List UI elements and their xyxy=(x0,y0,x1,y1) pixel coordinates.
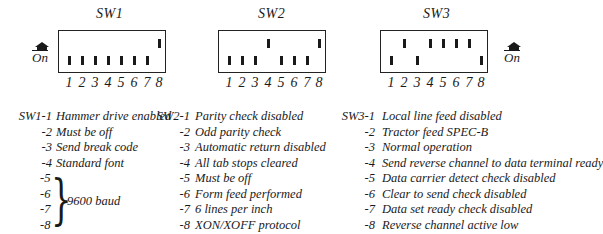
switch-sw1-1[interactable] xyxy=(68,56,71,65)
switch-sw3-3[interactable] xyxy=(416,56,419,65)
legend-row: SW2-1 Parity check disabled xyxy=(140,109,300,125)
switch-number: 1 xyxy=(386,75,396,91)
legend-sw2: SW2-1 Parity check disabled -2 Odd parit… xyxy=(140,109,300,233)
legend-key: -2 xyxy=(365,125,375,141)
sw1-title: SW1 xyxy=(96,6,123,22)
legend-key: SW1-1 xyxy=(19,109,52,125)
legend-row: -3 Send break code xyxy=(0,140,140,156)
switch-sw2-3[interactable] xyxy=(254,56,257,65)
switch-sw1-2[interactable] xyxy=(81,56,84,65)
switch-sw1-4[interactable] xyxy=(107,56,110,65)
switch-sw1-8[interactable] xyxy=(158,39,161,48)
legend-key: -3 xyxy=(365,140,375,156)
switch-sw1-5[interactable] xyxy=(120,56,123,65)
legend-row: -8 XON/XOFF protocol xyxy=(140,218,300,234)
switch-sw2-7[interactable] xyxy=(306,56,309,65)
legend-row: -7 6 lines per inch xyxy=(140,202,300,218)
legend-text: Normal operation xyxy=(382,140,472,156)
legend-text: Local line feed disabled xyxy=(382,109,502,125)
legend-row: -3 Normal operation xyxy=(330,140,587,156)
legend-text: Clear to send check disabled xyxy=(382,187,526,203)
legend-row: -4 All tab stops cleared xyxy=(140,156,300,172)
legend-row: -5 Data carrier detect check disabled xyxy=(330,171,587,187)
switch-sw2-4[interactable] xyxy=(267,39,270,48)
legend-key: SW2-1 xyxy=(157,109,190,125)
switch-number: 2 xyxy=(399,75,409,91)
legend-key: -8 xyxy=(365,218,375,234)
switch-number: 5 xyxy=(116,75,126,91)
switch-sw2-2[interactable] xyxy=(241,56,244,65)
switch-number: 6 xyxy=(451,75,461,91)
switch-sw3-1[interactable] xyxy=(390,56,393,65)
legend-text: Automatic return disabled xyxy=(195,140,326,156)
switch-sw3-6[interactable] xyxy=(455,39,458,48)
legend-text: Parity check disabled xyxy=(195,109,303,125)
switch-number: 3 xyxy=(250,75,260,91)
legend-sw1: SW1-1 Hammer drive enabled -2 Must be of… xyxy=(0,109,140,233)
legend-row: -6 Form feed performed xyxy=(140,187,300,203)
legend-row: -3 Automatic return disabled xyxy=(140,140,300,156)
legend-key: -4 xyxy=(365,156,375,172)
legend-row: SW3-1 Local line feed disabled xyxy=(330,109,587,125)
legend-key: -7 xyxy=(40,202,50,218)
legend-text: Data set ready check disabled xyxy=(382,202,532,218)
legend-row: -6 Clear to send check disabled xyxy=(330,187,587,203)
switch-number: 5 xyxy=(276,75,286,91)
switch-number: 4 xyxy=(425,75,435,91)
legend-key: -7 xyxy=(180,202,190,218)
dip-switch-sw1 xyxy=(58,30,166,73)
switch-sw3-4[interactable] xyxy=(429,39,432,48)
switch-sw3-7[interactable] xyxy=(468,39,471,48)
switch-number: 6 xyxy=(129,75,139,91)
legend-row: -2 Must be off xyxy=(0,125,140,141)
sw3-title: SW3 xyxy=(423,6,450,22)
on-indicator-sw1: On xyxy=(30,42,54,68)
switch-sw3-8[interactable] xyxy=(480,56,483,65)
sw2-title: SW2 xyxy=(258,6,285,22)
switch-number: 2 xyxy=(77,75,87,91)
switch-sw1-7[interactable] xyxy=(146,56,149,65)
legend-key: -6 xyxy=(365,187,375,203)
legend-text: Odd parity check xyxy=(195,125,281,141)
sw1-numbers: 1 2 3 4 5 6 7 8 xyxy=(58,75,166,89)
legend-text: 6 lines per inch xyxy=(195,202,272,218)
switch-number: 8 xyxy=(314,75,324,91)
switch-sw1-6[interactable] xyxy=(133,56,136,65)
switch-number: 1 xyxy=(64,75,74,91)
legend-text: XON/XOFF protocol xyxy=(195,218,300,234)
legend-text: All tab stops cleared xyxy=(195,156,298,172)
switch-number: 4 xyxy=(103,75,113,91)
switch-sw1-3[interactable] xyxy=(94,56,97,65)
on-label: On xyxy=(32,50,48,65)
legend-key: -2 xyxy=(42,125,52,141)
legend-key: -7 xyxy=(365,202,375,218)
legend-text: Form feed performed xyxy=(195,187,302,203)
legend-key: -8 xyxy=(180,218,190,234)
legend-key: SW3-1 xyxy=(342,109,375,125)
switch-sw2-6[interactable] xyxy=(293,56,296,65)
switch-number: 2 xyxy=(237,75,247,91)
legend-key: -5 xyxy=(180,171,190,187)
switch-sw3-2[interactable] xyxy=(403,39,406,48)
legend-key: -5 xyxy=(365,171,375,187)
switch-number: 8 xyxy=(476,75,486,91)
on-indicator-sw3: On xyxy=(502,42,526,68)
legend-row: -2 Tractor feed SPEC-B xyxy=(330,125,587,141)
switch-sw2-5[interactable] xyxy=(280,56,283,65)
sw2-numbers: 1 2 3 4 5 6 7 8 xyxy=(218,75,326,89)
switch-number: 8 xyxy=(154,75,164,91)
switch-sw2-8[interactable] xyxy=(318,39,321,48)
legend-key: -3 xyxy=(42,140,52,156)
switch-sw3-5[interactable] xyxy=(442,39,445,48)
legend-text: Reverse channel active low xyxy=(382,218,518,234)
grouped-baud-text: 9600 baud xyxy=(67,194,120,210)
legend-row: -7 Data set ready check disabled xyxy=(330,202,587,218)
legend-row: -5 Must be off xyxy=(140,171,300,187)
legend-key: -6 xyxy=(180,187,190,203)
switch-sw2-1[interactable] xyxy=(228,56,231,65)
switch-number: 6 xyxy=(289,75,299,91)
switch-number: 3 xyxy=(412,75,422,91)
legend-row: -4 Send reverse channel to data terminal… xyxy=(330,156,587,172)
legend-text: Tractor feed SPEC-B xyxy=(382,125,488,141)
legend-key: -6 xyxy=(40,187,50,203)
